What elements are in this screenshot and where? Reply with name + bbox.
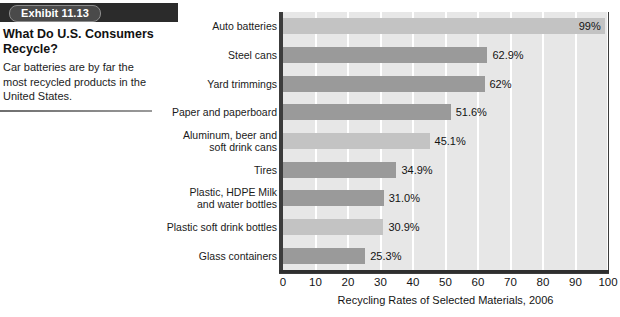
bar: [283, 133, 430, 149]
x-tick-label: 80: [537, 275, 550, 289]
bar-value-label: 30.9%: [388, 221, 419, 233]
x-axis-line: [279, 270, 609, 273]
x-tick-label: 100: [598, 275, 617, 289]
category-label-line: Yard trimmings: [207, 78, 277, 90]
category-label: Auto batteries: [146, 20, 277, 32]
gridline: [575, 12, 577, 270]
x-tick-label: 60: [472, 275, 485, 289]
bar-value-label: 25.3%: [370, 250, 401, 262]
category-label: Paper and paperboard: [146, 106, 277, 118]
bar: [283, 47, 487, 63]
x-tick-label: 40: [407, 275, 420, 289]
x-tick-label: 30: [374, 275, 387, 289]
category-label-line: Glass containers: [199, 250, 277, 262]
bar-chart: Auto batteriesSteel cansYard trimmingsPa…: [0, 0, 620, 317]
category-label: Plastic soft drink bottles: [146, 221, 277, 233]
bar: [283, 76, 485, 92]
category-label: Aluminum, beer andsoft drink cans: [146, 129, 277, 153]
category-label-line: Steel cans: [228, 49, 277, 61]
x-tick-label: 50: [439, 275, 452, 289]
category-label-line: Auto batteries: [212, 20, 277, 32]
bar-value-label: 99%: [579, 20, 601, 32]
gridline: [607, 12, 608, 270]
category-axis: Auto batteriesSteel cansYard trimmingsPa…: [150, 12, 281, 270]
category-label: Plastic, HDPE Milkand water bottles: [146, 186, 277, 210]
x-axis-ticks: 0102030405060708090100: [283, 275, 608, 291]
bar: [283, 248, 365, 264]
bar-value-label: 51.6%: [456, 106, 487, 118]
bar-value-label: 62.9%: [492, 49, 523, 61]
category-label: Tires: [146, 164, 277, 176]
bar-value-label: 31.0%: [389, 192, 420, 204]
bar-value-label: 62%: [490, 78, 512, 90]
bar: [283, 162, 396, 178]
category-label-line: Plastic, HDPE Milk: [189, 186, 277, 198]
category-label: Steel cans: [146, 49, 277, 61]
x-tick-label: 90: [569, 275, 582, 289]
bar: [283, 190, 384, 206]
x-tick-label: 0: [280, 275, 286, 289]
category-label-line: soft drink cans: [209, 141, 277, 153]
bar-value-label: 45.1%: [435, 135, 466, 147]
gridline: [542, 12, 544, 270]
x-axis-title: Recycling Rates of Selected Materials, 2…: [283, 294, 608, 306]
category-label-line: and water bottles: [197, 198, 277, 210]
bar: [283, 18, 605, 34]
category-label-line: Aluminum, beer and: [183, 129, 277, 141]
bar: [283, 104, 451, 120]
category-label: Yard trimmings: [146, 78, 277, 90]
x-tick-label: 70: [504, 275, 517, 289]
category-label-line: Paper and paperboard: [172, 106, 277, 118]
category-label-line: Plastic soft drink bottles: [167, 221, 277, 233]
bar-value-label: 34.9%: [401, 164, 432, 176]
bar: [283, 219, 383, 235]
category-label: Glass containers: [146, 250, 277, 262]
x-tick-label: 10: [309, 275, 322, 289]
x-tick-label: 20: [342, 275, 355, 289]
category-label-line: Tires: [254, 164, 277, 176]
